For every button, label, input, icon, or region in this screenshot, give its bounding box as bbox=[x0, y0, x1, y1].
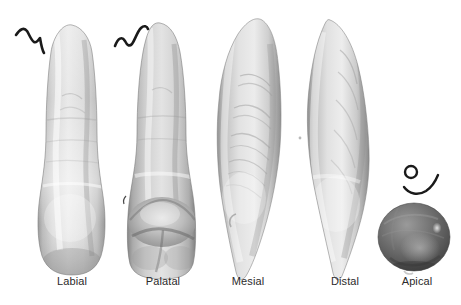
tooth-view-distal bbox=[299, 20, 370, 280]
view-label-mesial: Mesial bbox=[232, 275, 264, 287]
tooth-base-nick-apical bbox=[404, 271, 413, 274]
tooth-nick-palatal bbox=[124, 196, 126, 204]
tooth-view-labial bbox=[38, 25, 105, 276]
view-label-palatal: Palatal bbox=[146, 275, 180, 287]
view-label-distal: Distal bbox=[331, 275, 359, 287]
view-label-labial: Labial bbox=[57, 275, 87, 287]
annotation-mark-palatal bbox=[115, 26, 148, 46]
annotation-mark-apical bbox=[404, 166, 438, 194]
speck-distal bbox=[299, 137, 302, 140]
tooth-view-palatal bbox=[124, 23, 196, 279]
tooth-multiview-figure: Labial Palatal Mesial Distal Apical bbox=[0, 0, 461, 305]
annotation-mark-labial bbox=[16, 29, 44, 53]
tooth-view-apical bbox=[378, 203, 450, 275]
view-label-apical: Apical bbox=[402, 275, 433, 287]
figure-canvas bbox=[0, 0, 461, 305]
tooth-view-mesial bbox=[217, 19, 281, 280]
